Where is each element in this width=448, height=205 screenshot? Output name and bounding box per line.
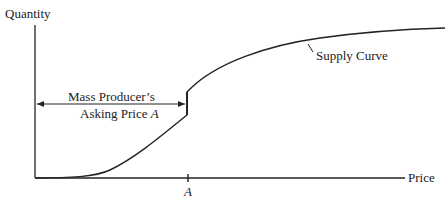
curve-label: Supply Curve <box>316 49 388 62</box>
tick-a-label: A <box>184 185 192 198</box>
annotation-line1: Mass Producer’s <box>68 90 155 103</box>
y-axis-label: Quantity <box>5 7 51 20</box>
annotation-line2-text: Asking Price <box>80 106 151 121</box>
curve-label-leader <box>308 44 313 52</box>
annotation-line2-var: A <box>151 106 159 121</box>
annotation-line2: Asking Price A <box>80 107 159 120</box>
x-axis-label: Price <box>408 171 435 184</box>
supply-curve-lower <box>35 115 187 178</box>
